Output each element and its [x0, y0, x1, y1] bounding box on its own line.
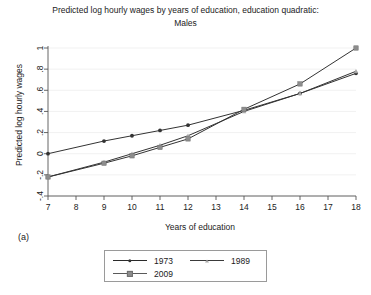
circle-marker-icon — [128, 259, 131, 262]
legend-label-1973: 1973 — [154, 256, 173, 266]
y-tick-label: .8 — [35, 65, 45, 72]
legend-item-1973[interactable]: 1973 — [113, 254, 173, 267]
x-tick-label: 10 — [127, 202, 137, 212]
y-tick-label: -.2 — [35, 170, 45, 180]
chart-figure: Predicted log hourly wages by years of e… — [0, 0, 371, 295]
x-tick-label: 17 — [323, 202, 333, 212]
x-tick-label: 13 — [211, 202, 221, 212]
x-tick-label: 8 — [74, 202, 79, 212]
legend-line-2009 — [113, 273, 147, 274]
panel-label: (a) — [18, 232, 29, 242]
data-point-1973 — [102, 139, 106, 143]
legend-item-1989[interactable]: 1989 — [190, 254, 250, 267]
data-point-2009 — [186, 137, 190, 141]
x-tick-label: 12 — [183, 202, 193, 212]
data-point-1973 — [158, 129, 162, 133]
data-point-1973 — [130, 134, 134, 138]
x-tick-label: 18 — [351, 202, 361, 212]
y-tick-label: .2 — [35, 129, 45, 136]
y-tick-label: -.4 — [35, 191, 45, 201]
x-tick-label: 7 — [46, 202, 51, 212]
legend-label-2009: 2009 — [154, 269, 173, 279]
chart-legend: 1973 1989 2009 — [104, 250, 267, 282]
data-point-2009 — [354, 46, 358, 50]
data-point-2009 — [298, 82, 302, 86]
y-tick-label: 1 — [35, 45, 45, 50]
y-tick-label: .4 — [35, 108, 45, 115]
series-line-1989 — [48, 71, 356, 177]
data-point-2009 — [158, 145, 162, 149]
legend-label-1989: 1989 — [231, 256, 250, 266]
y-tick-label: 0 — [35, 151, 45, 156]
data-point-2009 — [102, 161, 106, 165]
data-point-2009 — [46, 175, 50, 179]
triangle-marker-icon — [205, 259, 209, 262]
data-point-2009 — [242, 107, 246, 111]
legend-item-2009[interactable]: 2009 — [113, 267, 173, 280]
data-point-1973 — [186, 123, 190, 127]
x-tick-label: 11 — [156, 202, 165, 212]
legend-line-1989 — [190, 260, 224, 261]
x-tick-label: 9 — [102, 202, 107, 212]
x-tick-label: 15 — [267, 202, 277, 212]
series-line-2009 — [48, 48, 356, 177]
legend-line-1973 — [113, 260, 147, 261]
data-point-2009 — [130, 154, 134, 158]
plot-area: 1.8.6.4.20-.2-.4789101112131415161718 — [0, 0, 371, 230]
data-point-1973 — [46, 152, 50, 156]
x-tick-label: 14 — [239, 202, 249, 212]
y-tick-label: .6 — [35, 86, 45, 93]
square-marker-icon — [127, 270, 133, 276]
series-line-1973 — [48, 73, 356, 153]
x-tick-label: 16 — [295, 202, 305, 212]
data-point-1989 — [354, 69, 359, 73]
